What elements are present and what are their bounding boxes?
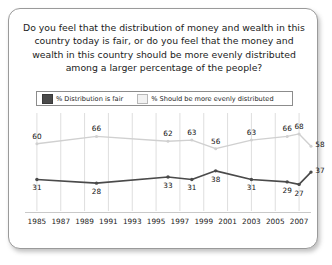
x-axis-line (25, 212, 311, 213)
x-axis-tick: 1999 (194, 217, 213, 226)
chart-svg (23, 113, 319, 211)
line-chart-plot-area: 606662635663666858312833313831292737 (23, 113, 319, 211)
data-point-label: 60 (32, 132, 41, 141)
legend-item-distribution-is-fair: % Distribution is fair (42, 94, 123, 104)
data-point-label: 31 (247, 183, 256, 192)
data-point-label: 38 (211, 175, 220, 184)
legend-label-more-evenly-distributed: % Should be more evenly distributed (151, 95, 273, 103)
chart-legend: % Distribution is fair % Should be more … (36, 91, 293, 106)
question-line-1: Do you feel that the distribution of mon… (23, 21, 307, 34)
legend-label-distribution-is-fair: % Distribution is fair (56, 95, 123, 103)
data-point-label: 33 (163, 181, 172, 190)
data-point-label: 63 (247, 128, 256, 137)
data-point-label: 28 (92, 187, 101, 196)
data-point-label: 68 (294, 122, 303, 131)
legend-item-more-evenly-distributed: % Should be more evenly distributed (137, 94, 273, 104)
data-point-label: 29 (283, 186, 292, 195)
x-axis-tick: 1997 (171, 217, 190, 226)
x-axis-tick: 2005 (266, 217, 285, 226)
screenshot-root: Do you feel that the distribution of mon… (0, 0, 332, 265)
legend-swatch-icon-light (137, 94, 148, 104)
x-axis-tick: 2003 (242, 217, 261, 226)
x-axis-tick: 2007 (290, 217, 309, 226)
x-axis-tick: 2001 (218, 217, 237, 226)
question-line-3: wealth in this country should be more ev… (21, 48, 307, 61)
data-point-label: 63 (187, 128, 196, 137)
data-point-label: 66 (283, 124, 292, 133)
legend-swatch-icon-dark (42, 94, 53, 104)
data-point-label: 37 (315, 166, 324, 175)
data-point-label: 31 (32, 183, 41, 192)
poll-chart-card: Do you feel that the distribution of mon… (8, 8, 318, 249)
data-point-label: 62 (163, 129, 172, 138)
data-point-label: 58 (315, 140, 324, 149)
data-point-label: 31 (187, 183, 196, 192)
x-axis-tick: 1987 (51, 217, 70, 226)
x-axis-tick: 1993 (123, 217, 142, 226)
x-axis-tick: 1995 (147, 217, 166, 226)
x-axis-tick: 1989 (75, 217, 94, 226)
question-line-4: among a larger percentage of the people? (21, 61, 307, 74)
question-text: Do you feel that the distribution of mon… (21, 21, 307, 75)
data-point-label: 27 (294, 189, 303, 198)
question-line-2: country today is fair, or do you feel th… (21, 34, 307, 47)
x-axis: 1985198719891991199319951997199920012003… (23, 212, 319, 230)
x-axis-tick: 1985 (28, 217, 47, 226)
x-axis-tick: 1991 (99, 217, 118, 226)
data-point-label: 66 (92, 124, 101, 133)
data-point-label: 56 (211, 137, 220, 146)
